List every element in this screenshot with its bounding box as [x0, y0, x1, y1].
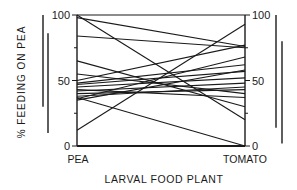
left-tick-0: 0: [64, 140, 70, 152]
right-tick-100: 100: [252, 9, 270, 21]
series-line: [77, 87, 245, 96]
series-line: [77, 98, 245, 146]
left-tick-100: 100: [52, 9, 70, 21]
right-tick-50: 50: [252, 75, 264, 87]
slope-chart: 100 50 0 100 50 0 PEA TOMATO LARVAL FOOD…: [0, 0, 297, 190]
side-range-bars: [43, 15, 282, 143]
series-line: [77, 70, 245, 100]
left-ticks: [72, 15, 77, 146]
x-category-tomato: TOMATO: [223, 153, 267, 165]
right-tick-0: 0: [252, 140, 258, 152]
series-lines: [77, 15, 245, 146]
y-axis-title: % FEEDING ON PEA: [16, 26, 27, 139]
x-category-pea: PEA: [67, 153, 88, 165]
left-tick-50: 50: [58, 75, 70, 87]
right-ticks: [245, 15, 250, 146]
x-axis-title: LARVAL FOOD PLANT: [104, 173, 223, 185]
